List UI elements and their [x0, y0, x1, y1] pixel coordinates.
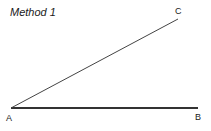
angle-diagram [0, 0, 211, 131]
point-c-label: C [175, 6, 182, 16]
point-a-label: A [6, 113, 12, 123]
ray-ac [11, 19, 178, 108]
point-b-label: B [195, 112, 201, 122]
